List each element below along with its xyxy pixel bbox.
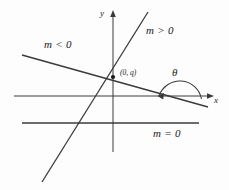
label-x-axis: x <box>214 95 218 105</box>
theta-angle-arc <box>158 81 202 99</box>
label-theta-angle: θ <box>172 66 177 78</box>
label-positive-slope: m > 0 <box>146 24 174 36</box>
x-axis <box>14 93 214 99</box>
label-zero-slope: m = 0 <box>153 127 181 139</box>
label-y-axis: y <box>100 8 104 18</box>
y-axis-arrowhead <box>110 10 116 17</box>
line-slope-diagram: m > 0 m < 0 m = 0 y x (0, q) θ <box>0 0 229 190</box>
y-intercept-dot <box>111 75 115 79</box>
label-negative-slope: m < 0 <box>44 38 72 50</box>
diagram-canvas <box>0 0 229 190</box>
label-y-intercept-point: (0, q) <box>120 68 136 77</box>
x-axis-arrowhead <box>207 93 214 99</box>
